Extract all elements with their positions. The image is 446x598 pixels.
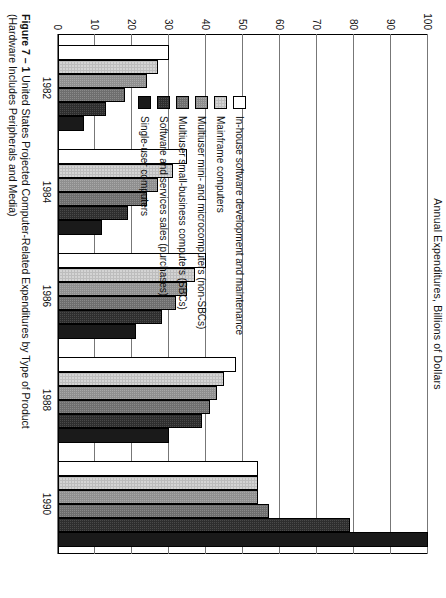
bar — [58, 400, 210, 414]
legend-item: Mainframe computers — [214, 96, 227, 335]
category-axis-label: 1990 — [41, 493, 52, 515]
black-square-icon — [138, 96, 151, 109]
bar — [58, 45, 169, 59]
bar — [58, 324, 136, 338]
bar — [58, 386, 217, 400]
medium-gray-square-icon — [195, 96, 208, 109]
figure-caption: Figure 7 – 1 United States Projected Com… — [6, 14, 32, 432]
bar — [58, 220, 102, 234]
bar — [58, 490, 258, 504]
legend-item-label: In-house software development and mainte… — [234, 116, 245, 335]
value-axis-tick-label: 90 — [385, 19, 396, 30]
bar — [58, 476, 258, 490]
value-axis-title: Annual Expenditures, Billions of Dollars — [432, 34, 444, 554]
bar — [58, 532, 428, 546]
legend-item-label: Single-user computers — [139, 116, 150, 216]
figure-page: Annual Expenditures, Billions of Dollars… — [0, 0, 446, 598]
value-axis-tick-label: 60 — [274, 19, 285, 30]
bar — [58, 518, 350, 532]
category-axis-label: 1984 — [41, 181, 52, 203]
legend-item-label: Multiuser mini- and microcomputers (non-… — [196, 116, 207, 329]
bar — [58, 116, 84, 130]
legend-item: In-house software development and mainte… — [233, 96, 246, 335]
value-axis-tick-label: 80 — [348, 19, 359, 30]
bar — [58, 461, 258, 475]
bar — [58, 428, 169, 442]
legend-item: Software and services sales (purchases) — [157, 96, 170, 335]
legend-item-label: Multiuser small-business computers (SBCs… — [177, 116, 188, 310]
legend-item-label: Software and services sales (purchases) — [158, 116, 169, 296]
chart-legend: In-house software development and mainte… — [132, 96, 246, 335]
legend-item: Single-user computers — [138, 96, 151, 335]
bar — [58, 206, 128, 220]
value-axis-tick-label: 70 — [311, 19, 322, 30]
bar — [58, 357, 236, 371]
white-open-square-icon — [233, 96, 246, 109]
figure-caption-text: United States Projected Computer-Related… — [7, 14, 32, 429]
bar — [58, 74, 147, 88]
legend-item-label: Mainframe computers — [215, 116, 226, 213]
value-axis-tick-label: 30 — [163, 19, 174, 30]
figure-label: Figure 7 – 1 — [20, 14, 32, 72]
very-dark-gray-square-icon — [157, 96, 170, 109]
bar — [58, 88, 125, 102]
bar — [58, 414, 202, 428]
value-axis-tick-label: 20 — [126, 19, 137, 30]
legend-item: Multiuser small-business computers (SBCs… — [176, 96, 189, 335]
category-axis-label: 1982 — [41, 77, 52, 99]
bar — [58, 102, 106, 116]
value-axis-tick-label: 50 — [237, 19, 248, 30]
bar — [58, 504, 269, 518]
legend-column: In-house software development and mainte… — [132, 96, 246, 335]
bar — [58, 60, 158, 74]
bar-group: 1990 — [58, 461, 428, 546]
light-gray-square-icon — [214, 96, 227, 109]
bar — [58, 372, 225, 386]
chart-stage: Annual Expenditures, Billions of Dollars… — [0, 0, 446, 598]
legend-item: Multiuser mini- and microcomputers (non-… — [195, 96, 208, 335]
value-axis-tick-label: 0 — [52, 24, 63, 30]
bar-group: 1988 — [58, 357, 428, 442]
value-axis-tick-label: 40 — [200, 19, 211, 30]
category-axis-label: 1986 — [41, 285, 52, 307]
value-axis-tick-label: 10 — [89, 19, 100, 30]
dark-gray-square-icon — [176, 96, 189, 109]
category-axis-label: 1988 — [41, 389, 52, 411]
value-axis-tick-label: 100 — [422, 13, 433, 30]
